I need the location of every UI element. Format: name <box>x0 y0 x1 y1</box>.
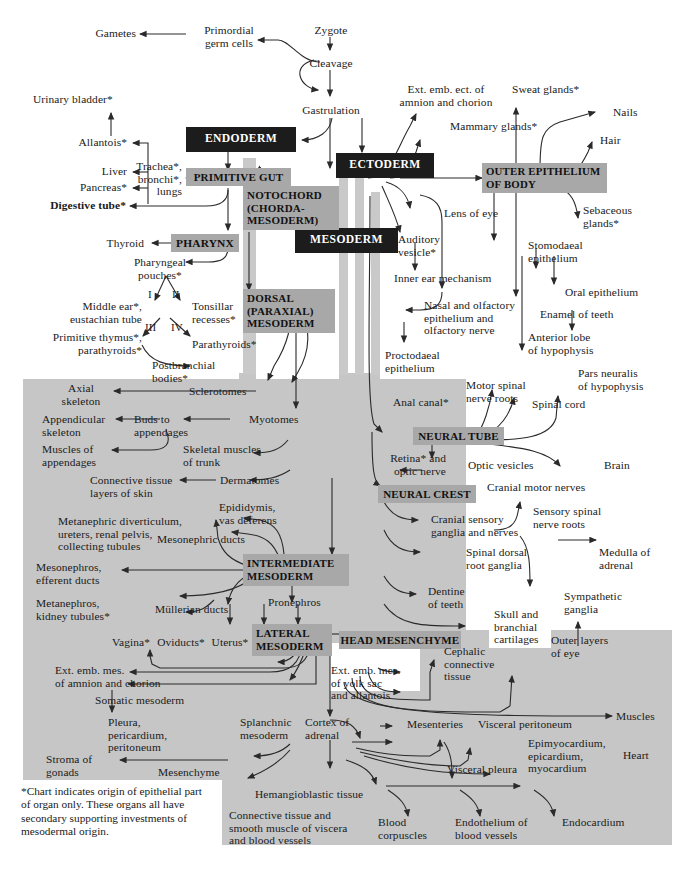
label-hemangioblastic: Hemangioblastic tissue <box>255 788 363 801</box>
label-inner-ear: Inner ear mechanism <box>394 272 491 285</box>
label-mesenchyme: Mesenchyme <box>158 766 220 779</box>
label-digestive-tube: Digestive tube* <box>28 199 126 212</box>
box-notochord: NOTOCHORD (CHORDA- MESODERM) <box>243 186 339 230</box>
label-connective-tissue-smooth: Connective tissue and smooth muscle of v… <box>229 809 348 847</box>
box-neural-crest: NEURAL CREST <box>378 485 476 503</box>
label-primordial-germ-cells: Primordial germ cells <box>188 24 270 49</box>
label-dermatomes: Dermatomes <box>220 474 279 487</box>
label-pleura-pericardium: Pleura, pericardium, peritoneum <box>108 716 167 754</box>
label-mammary-glands: Mammary glands* <box>450 120 537 133</box>
label-outer-layers-eye: Outer layers of eye <box>551 634 608 659</box>
label-appendicular-skeleton: Appendicular skeleton <box>42 413 105 438</box>
box-head-mesenchyme: HEAD MESENCHYME <box>339 631 461 649</box>
label-skeletal-muscles-trunk: Skeletal muscles of trunk <box>183 443 261 468</box>
label-cephalic-connective: Cephalic connective tissue <box>444 645 494 683</box>
label-enamel-of-teeth: Enamel of teeth <box>540 308 614 321</box>
label-mullerian-ducts: Müllerian ducts <box>155 603 228 616</box>
label-optic-vesicles: Optic vesicles <box>468 459 534 472</box>
label-ext-emb-mes-amnion: Ext. emb. mes. of amnion and chorion <box>55 664 161 689</box>
label-skull-branchial: Skull and branchial cartilages <box>494 608 539 646</box>
label-auditory-vesicle: Auditory vesicle* <box>398 233 440 258</box>
label-brain: Brain <box>604 459 630 472</box>
label-sympathetic-ganglia: Sympathetic ganglia <box>564 590 622 615</box>
label-epididymis: Epididymis, vas deferens <box>219 501 277 526</box>
label-muscles-of-appendages: Muscles of appendages <box>42 443 96 468</box>
label-spinal-dorsal-root: Spinal dorsal root ganglia <box>466 546 527 571</box>
label-tonsillar-recesses: Tonsillar recesses* <box>192 300 236 325</box>
label-nasal-olfactory: Nasal and olfactory epithelium and olfac… <box>424 299 515 337</box>
label-heart: Heart <box>623 749 649 762</box>
label-sweat-glands: Sweat glands* <box>512 83 579 96</box>
label-spinal-cord: Spinal cord <box>532 398 585 411</box>
label-motor-spinal-nerve-roots: Motor spinal nerve roots <box>466 379 526 404</box>
label-oral-epithelium: Oral epithelium <box>565 286 638 299</box>
label-anterior-lobe: Anterior lobe of hypophysis <box>528 331 594 356</box>
label-parathyroids: Parathyroids* <box>192 338 257 351</box>
footnote-text: *Chart indicates origin of epithelial pa… <box>16 782 222 843</box>
label-roman-iii: III <box>145 321 156 334</box>
label-liver: Liver <box>49 165 127 178</box>
label-endocardium: Endocardium <box>562 816 624 829</box>
label-gametes: Gametes <box>66 27 136 40</box>
box-lateral-mesoderm: LATERAL MESODERM <box>252 624 332 656</box>
label-sebaceous-glands: Sebaceous glands* <box>583 204 632 229</box>
label-pancreas: Pancreas* <box>49 181 127 194</box>
label-hair: Hair <box>600 134 621 147</box>
label-uterus: Uterus* <box>208 636 252 649</box>
label-lens-of-eye: Lens of eye <box>444 207 498 220</box>
label-mesonephric-ducts: Mesonephric ducts <box>157 533 245 546</box>
label-sensory-spinal: Sensory spinal nerve roots <box>533 505 601 530</box>
label-splanchnic-mesoderm: Splanchnic mesoderm <box>240 716 292 741</box>
label-anal-canal: Anal canal* <box>393 396 449 409</box>
label-visceral-peritoneum: Visceral peritoneum <box>478 718 572 731</box>
label-somatic-mesoderm: Somatic mesoderm <box>95 694 184 707</box>
label-urinary-bladder: Urinary bladder* <box>33 93 113 106</box>
label-trachea-bronchi-lungs: Trachea*, bronchi*, lungs <box>120 160 182 198</box>
label-cranial-motor-nerves: Cranial motor nerves <box>487 481 585 494</box>
label-muscles: Muscles <box>616 710 655 723</box>
label-roman-iv: IV <box>171 321 183 334</box>
label-primitive-thymus: Primitive thymus*, parathyroids* <box>22 331 142 356</box>
label-mesenteries: Mesenteries <box>407 718 463 731</box>
label-postbranchial-bodies: Postbranchial bodies* <box>152 359 215 384</box>
label-nails: Nails <box>613 106 638 119</box>
label-retina-optic-nerve: Retina* and optic nerve <box>379 452 446 477</box>
label-blood-corpuscles: Blood corpuscles <box>378 816 427 841</box>
label-ext-emb-ect: Ext. emb. ect. of amnion and chorion <box>390 83 502 108</box>
label-roman-i: I <box>148 288 152 301</box>
label-buds-to-appendages: Buds to appendages <box>134 413 188 438</box>
label-cortex-of-adrenal: Cortex of adrenal <box>305 716 349 741</box>
label-gastrulation: Gastrulation <box>294 104 368 117</box>
label-dentine-of-teeth: Dentine of teeth <box>428 585 465 610</box>
box-intermediate-mesoderm: INTERMEDIATE MESODERM <box>243 554 349 586</box>
box-dorsal-mesoderm: DORSAL (PARAXIAL) MESODERM <box>243 289 335 333</box>
box-primitive-gut: PRIMITIVE GUT <box>186 168 291 186</box>
label-thyroid: Thyroid <box>86 237 144 250</box>
box-mesoderm: MESODERM <box>295 228 398 253</box>
label-endothelium-blood-vessels: Endothelium of blood vessels <box>455 816 528 841</box>
label-pars-neuralis: Pars neuralis of hypophysis <box>578 367 644 392</box>
label-pronephros: Pronephros <box>268 596 321 609</box>
label-ext-emb-mes-yolk: Ext. emb. mes. of yolk sac and allantois <box>331 664 400 702</box>
label-roman-ii: II <box>172 288 180 301</box>
label-middle-ear: Middle ear*, eustachian tube <box>30 300 142 325</box>
label-visceral-pleura: Visceral pleura <box>447 763 517 776</box>
label-stroma-of-gonads: Stroma of gonads <box>46 753 92 778</box>
label-mesonephros: Mesonephros, efferent ducts <box>36 561 101 586</box>
label-epimyocardium: Epimyocardium, epicardium, myocardium <box>528 737 606 775</box>
label-proctodaeal-epithelium: Proctodaeal epithelium <box>385 349 440 374</box>
label-pharyngeal-pouches: Pharyngeal pouches* <box>126 256 194 281</box>
label-allantois: Allantois* <box>49 136 127 149</box>
label-zygote: Zygote <box>306 24 356 37</box>
label-vagina: Vagina* <box>109 636 153 649</box>
box-ectoderm: ECTODERM <box>336 153 434 178</box>
label-myotomes: Myotomes <box>249 413 299 426</box>
label-cranial-sensory: Cranial sensory ganglia and nerves <box>431 513 518 538</box>
label-connective-tissue-skin: Connective tissue layers of skin <box>90 474 172 499</box>
box-endoderm: ENDODERM <box>186 127 296 152</box>
label-axial-skeleton: Axial skeleton <box>50 382 112 407</box>
box-outer-epithelium: OUTER EPITHELIUM OF BODY <box>482 163 607 193</box>
box-neural-tube: NEURAL TUBE <box>413 427 504 445</box>
label-stomodaeal-epithelium: Stomodaeal epithelium <box>528 239 583 264</box>
label-metanephros: Metanephros, kidney tubules* <box>36 597 110 622</box>
